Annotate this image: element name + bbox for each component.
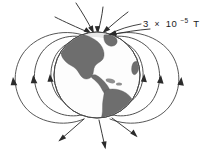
caribbean-island-east xyxy=(116,82,122,85)
label-times-symbol: × xyxy=(155,19,160,29)
label-coefficient: 3 xyxy=(143,18,149,29)
label-exponent: −5 xyxy=(180,17,188,24)
figure-canvas: 3 × 10 −5 T xyxy=(0,0,215,158)
label-unit: T xyxy=(193,18,199,29)
field-strength-label: 3 × 10 −5 T xyxy=(143,14,199,29)
south-arrow-3-head-icon xyxy=(130,130,137,138)
arrow-upward-left-loop-middle-icon xyxy=(30,75,37,84)
arrow-upward-left-loop-inner-icon xyxy=(47,74,54,82)
arrow-upward-right-loop-inner-icon xyxy=(141,74,148,82)
north-pole-inbound-arrows xyxy=(55,3,150,37)
arrow-upward-left-loop-outer-icon xyxy=(10,77,17,86)
earth-magnetic-field-figure: 3 × 10 −5 T xyxy=(0,0,215,158)
arrow-upward-right-loop-middle-icon xyxy=(157,75,164,84)
earth-globe xyxy=(54,32,140,139)
label-base: 10 xyxy=(166,18,177,29)
south-arrow-2-head-icon xyxy=(101,141,106,149)
